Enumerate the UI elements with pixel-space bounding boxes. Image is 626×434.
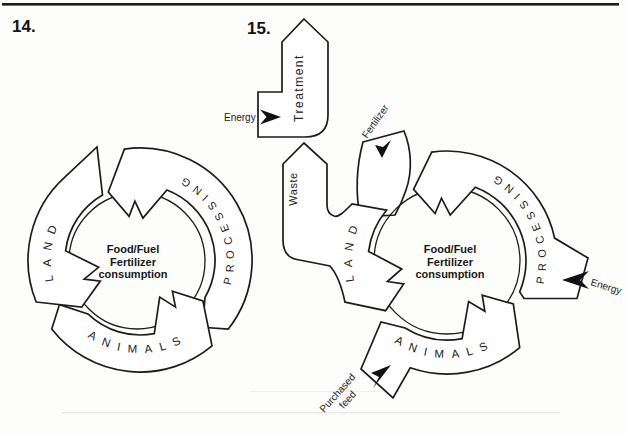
treatment-label: Treatment — [292, 54, 306, 122]
figure-14-number: 14. — [12, 17, 36, 36]
fertilizer-label: Fertilizer — [360, 102, 391, 140]
energy-into-processing-label: Energy — [589, 276, 623, 296]
figure-15-number: 15. — [247, 19, 271, 38]
center-label-15-line3: consumption — [415, 268, 484, 280]
land-arrow-14 — [28, 147, 102, 307]
center-label-14-line3: consumption — [98, 268, 167, 280]
figure-14: 14. Food/Fuel Fertilizer consumption PRO… — [12, 17, 252, 372]
waste-label: Waste — [287, 172, 299, 205]
purchased-feed-label: Purchased feed — [317, 371, 366, 422]
top-rule — [2, 3, 619, 6]
scan-artifact-smudge — [250, 391, 400, 392]
center-label-15-line1: Food/Fuel — [424, 243, 477, 255]
figure-page: 14. Food/Fuel Fertilizer consumption PRO… — [0, 0, 626, 434]
center-label-14-line2: Fertilizer — [110, 256, 157, 268]
figure-15: 15. Food/Fuel Fertilizer consumption PRO… — [224, 19, 623, 422]
center-label-15-line2: Fertilizer — [427, 256, 474, 268]
fertilizer-arrow-15 — [357, 131, 410, 217]
scan-artifact-line — [62, 412, 560, 413]
energy-into-treatment-label: Energy — [224, 112, 256, 123]
center-label-14-line1: Food/Fuel — [107, 243, 160, 255]
